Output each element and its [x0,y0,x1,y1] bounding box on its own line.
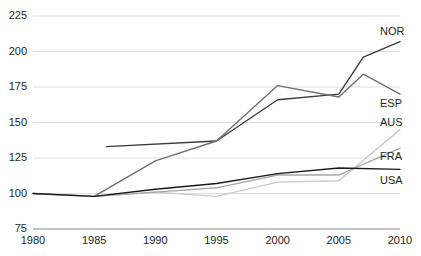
series-label-esp: ESP [380,98,402,109]
y-axis-tick: 100 [0,188,27,199]
x-axis-tick: 1995 [194,235,240,246]
y-axis-tick: 200 [0,46,27,57]
line-chart: 75100125150175200225 1980198519901995200… [0,0,421,256]
x-axis-tick: 2010 [377,235,421,246]
x-axis-tick: 2000 [255,235,301,246]
series-line-fra [33,148,400,196]
y-axis-tick: 75 [0,223,27,234]
series-label-aus: AUS [380,117,403,128]
y-axis-tick: 175 [0,81,27,92]
gridlines [33,16,400,229]
x-axis-tick: 1980 [10,235,56,246]
y-axis-tick: 150 [0,117,27,128]
x-axis-tick: 1985 [71,235,117,246]
data-series-group [33,42,400,197]
x-axis-tick: 2005 [316,235,362,246]
y-axis-tick: 225 [0,10,27,21]
series-label-fra: FRA [380,151,402,162]
series-label-nor: NOR [380,26,404,37]
series-line-aus [33,130,400,197]
series-line-nor [106,42,400,147]
chart-plot-area [0,0,421,256]
series-label-usa: USA [380,175,403,186]
x-axis-tick: 1990 [132,235,178,246]
y-axis-tick: 125 [0,152,27,163]
